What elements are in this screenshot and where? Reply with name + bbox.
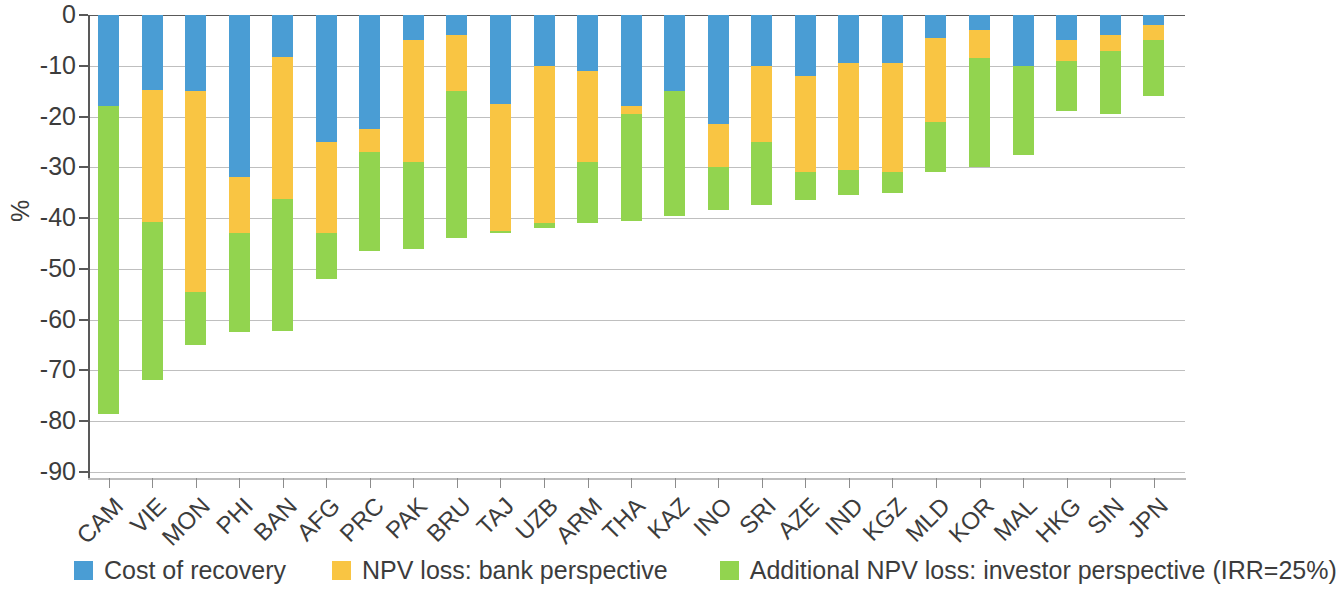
bar-segment [664, 91, 685, 215]
legend-label-npv-loss-investor: Additional NPV loss: investor perspectiv… [750, 558, 1337, 583]
y-tick-label: -60 [6, 307, 76, 332]
bar-segment [708, 167, 729, 210]
bar-segment [229, 233, 250, 332]
bar-segment [577, 15, 598, 71]
bar-segment [795, 76, 816, 172]
x-tick-mark [370, 478, 371, 488]
x-tick-mark [849, 478, 850, 488]
bar-segment [1100, 51, 1121, 114]
bar-segment [403, 162, 424, 248]
legend-label-npv-loss-bank: NPV loss: bank perspective [362, 558, 668, 583]
bar-segment [838, 170, 859, 195]
y-tick-label: -10 [6, 53, 76, 78]
bar-segment [969, 15, 990, 30]
x-tick-mark [1067, 478, 1068, 488]
bar-segment [316, 15, 337, 142]
bar-segment [577, 162, 598, 223]
y-tick-mark [79, 65, 88, 67]
x-tick-mark [413, 478, 414, 488]
bar-segment [1013, 66, 1034, 155]
bar-segment [751, 15, 772, 66]
bar-segment [882, 15, 903, 63]
bar-segment [185, 91, 206, 292]
x-tick-mark [718, 478, 719, 488]
y-tick-label: -20 [6, 104, 76, 129]
bar-segment [98, 106, 119, 413]
bar-segment [403, 40, 424, 162]
bar-segment [142, 222, 163, 379]
bar-segment [1013, 15, 1034, 66]
bar-segment [1056, 61, 1077, 112]
bar-segment [359, 15, 380, 129]
x-tick-mark [936, 478, 937, 488]
bar-segment [534, 66, 555, 223]
bar-segment [838, 63, 859, 170]
y-tick-mark [79, 268, 88, 270]
x-tick-mark [762, 478, 763, 488]
y-tick-mark [79, 420, 88, 422]
bar-segment [229, 177, 250, 233]
bar-segment [142, 90, 163, 222]
bar-segment [446, 91, 467, 238]
bar-segment [490, 231, 511, 234]
gridline [88, 472, 1185, 473]
bar-segment [708, 124, 729, 167]
x-tick-mark [588, 478, 589, 488]
bar-segment [708, 15, 729, 124]
bar-segment [534, 223, 555, 228]
x-tick-mark [675, 478, 676, 488]
y-tick-mark [79, 217, 88, 219]
bar-segment [1056, 40, 1077, 60]
bar-segment [838, 15, 859, 63]
x-tick-mark [196, 478, 197, 488]
x-tick-mark [1023, 478, 1024, 488]
x-tick-mark [326, 478, 327, 488]
x-tick-mark [544, 478, 545, 488]
bar-segment [882, 172, 903, 192]
legend-swatch-blue [74, 561, 93, 580]
legend-swatch-green [720, 561, 739, 580]
gridline [88, 421, 1185, 422]
bar-segment [925, 15, 946, 38]
bar-segment [1143, 40, 1164, 96]
bar-segment [969, 30, 990, 58]
bar-segment [882, 63, 903, 172]
bar-segment [621, 15, 642, 106]
bar-segment [751, 66, 772, 142]
y-tick-label: -30 [6, 154, 76, 179]
x-tick-mark [457, 478, 458, 488]
bar-segment [1143, 15, 1164, 25]
plot-area [88, 15, 1185, 472]
gridline [88, 320, 1185, 321]
bar-segment [359, 129, 380, 152]
x-tick-mark [980, 478, 981, 488]
bar-segment [403, 15, 424, 40]
legend-swatch-yellow [332, 561, 351, 580]
bar-segment [925, 38, 946, 122]
gridline [88, 370, 1185, 371]
y-tick-mark [79, 14, 88, 16]
bar-segment [490, 104, 511, 231]
legend-item-npv-loss-bank: NPV loss: bank perspective [332, 558, 668, 583]
bar-segment [1143, 25, 1164, 40]
y-tick-mark [79, 319, 88, 321]
y-tick-label: -70 [6, 357, 76, 382]
y-tick-label: -80 [6, 408, 76, 433]
x-tick-mark [283, 478, 284, 488]
bar-segment [490, 15, 511, 104]
bar-segment [272, 199, 293, 331]
bar-segment [621, 114, 642, 221]
y-axis-label: % [6, 200, 35, 222]
y-tick-label: -50 [6, 256, 76, 281]
bar-segment [142, 15, 163, 90]
bar-segment [577, 71, 598, 162]
bar-segment [229, 15, 250, 177]
bar-segment [751, 142, 772, 205]
bar-segment [98, 15, 119, 106]
bar-segment [534, 15, 555, 66]
bar-segment [185, 15, 206, 91]
bar-segment [795, 15, 816, 76]
x-tick-mark [1110, 478, 1111, 488]
y-tick-mark [79, 166, 88, 168]
